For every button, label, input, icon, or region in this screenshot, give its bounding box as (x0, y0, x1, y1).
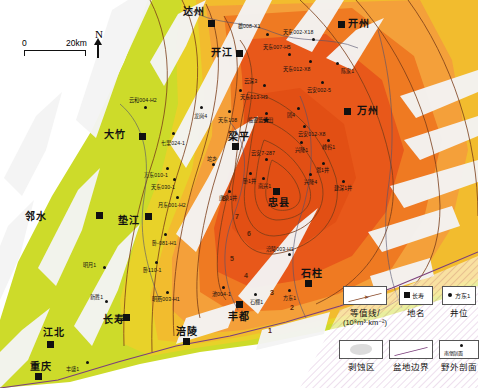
well-label: 峰谷1 (322, 145, 335, 150)
well-label: 万东010-1 (144, 173, 168, 178)
city-marker (344, 108, 351, 115)
well-dot-icon: 方东1 (442, 286, 476, 305)
well-label: 坨乡 (207, 157, 217, 162)
well-label: 涪陵003-H1 (266, 247, 294, 252)
denudation-blob-icon (339, 340, 383, 359)
city-label: 重庆 (30, 362, 51, 372)
well-label: 龙岗4 (194, 114, 207, 119)
well-label: 兴隆4 (304, 180, 317, 185)
city-label: 江北 (43, 328, 64, 338)
field-section-marker: ★ (262, 116, 270, 125)
city-label: 长寿 (103, 315, 124, 325)
well-label: 云深3 (244, 79, 257, 84)
well-label: 建深1井 (334, 186, 352, 191)
well-label: 天东108 (218, 118, 237, 123)
contour-line-icon: ➤ (343, 286, 387, 305)
city-marker (236, 50, 243, 57)
well-label: 云和004-H2 (129, 98, 157, 103)
contour-value-label: 8 (222, 195, 226, 202)
city-label: 开州 (348, 19, 369, 29)
legend-contour-caption: 等值线/ (336, 306, 394, 318)
city-marker (232, 143, 239, 150)
well-label: 卧110-1 (143, 268, 161, 273)
north-arrow-shaft (97, 42, 99, 58)
well-label: 新胜1 (90, 295, 103, 300)
city-marker (96, 212, 103, 219)
scale-bar-line (24, 50, 86, 51)
city-marker (145, 213, 152, 220)
scale-zero-label: 0 (22, 38, 27, 48)
city-marker (139, 133, 146, 140)
well-label: 团4 (287, 113, 295, 118)
city-marker (183, 338, 190, 345)
legend-denudation-caption: 剥蚀区 (336, 360, 386, 372)
city-marker (273, 188, 280, 195)
legend-item-denudation: 剥蚀区 (336, 340, 386, 372)
well-label: 卧-081-H1 (152, 241, 177, 246)
legend-place-sample: 长寿 (412, 291, 424, 300)
contour-value-label: 7 (235, 213, 239, 220)
contour-value-label: 5 (230, 255, 234, 262)
legend-basin-caption: 盆地边界 (386, 360, 436, 372)
well-label: 卧1井 (243, 179, 256, 184)
well-label: 天东013-H3 (240, 95, 268, 100)
city-marker (47, 341, 54, 348)
well-label: 恩1井 (316, 168, 329, 173)
legend-item-well: 方东1 井位 (438, 286, 480, 318)
city-label: 梁平 (228, 132, 249, 142)
city-label: 垫江 (118, 216, 139, 226)
well-label: 南兴1 (258, 184, 271, 189)
well-label: 月东001-H2 (158, 203, 186, 208)
city-label: 开江 (211, 48, 232, 58)
well-label: 丰盛1 (66, 367, 79, 372)
basin-boundary-icon (389, 340, 433, 359)
well-label: 天东002-X18 (283, 30, 314, 35)
city-label: 丰都 (228, 312, 249, 322)
contour-value-label: 2 (290, 304, 294, 311)
contour-value-label: 4 (244, 272, 248, 279)
city-label: 大竹 (104, 130, 125, 140)
well-label: 陈家1 (341, 69, 354, 74)
well-label: 雄008-X1 (238, 24, 260, 29)
well-label: 明月1 (83, 263, 96, 268)
legend-field-caption: 野外剖面 (436, 360, 482, 372)
contour-value-label: 6 (247, 230, 251, 237)
legend-well-sample: 方东1 (455, 291, 470, 300)
legend-place-caption: 地名 (394, 306, 438, 318)
well-label: 七里024-1 (161, 141, 185, 146)
city-marker (35, 373, 42, 380)
well-label: 明西003-H1 (152, 297, 180, 302)
city-label: 石柱 (301, 269, 322, 279)
well-label: 天东012-X8 (283, 67, 311, 72)
well-label: 天东030-1 (151, 185, 175, 190)
well-label: 云安012-X8 (298, 132, 326, 137)
north-arrow: N (92, 28, 106, 40)
place-square-icon: 长寿 (399, 286, 433, 305)
map-legend: ➤ 等值线/ (10⁸m³·km⁻²) 长寿 地名 方东1 井位 剥蚀区 盆地边… (336, 286, 478, 384)
well-label: 兴隆1 (295, 148, 308, 153)
city-marker (305, 280, 312, 287)
legend-contour-unit: (10⁸m³·km⁻²) (336, 318, 394, 327)
well-label: 方东1 (283, 296, 296, 301)
city-marker (123, 314, 130, 321)
legend-item-contour: ➤ 等值线/ (10⁸m³·km⁻²) (336, 286, 394, 327)
well-label: 云安7-287 (251, 151, 275, 156)
well-label: 池004-1 (212, 292, 231, 297)
contour-value-label: 1 (268, 327, 272, 334)
legend-field-sample: 南堡剖面 (444, 349, 463, 356)
city-label: 涪陵 (176, 327, 197, 337)
city-label: 达州 (183, 7, 204, 17)
legend-well-caption: 井位 (438, 306, 480, 318)
city-label: 忠县 (268, 198, 289, 208)
well-label: 石棚1 (250, 300, 263, 305)
scale-tick-end (85, 50, 86, 56)
legend-item-basin-boundary: 盆地边界 (386, 340, 436, 372)
well-label: 天东007-H5 (263, 45, 291, 50)
legend-item-field-section: 南堡剖面 野外剖面 (436, 340, 482, 372)
scale-tick-start (24, 50, 25, 56)
city-marker (208, 20, 215, 27)
contour-value-label: 3 (270, 289, 274, 296)
legend-item-place-name: 长寿 地名 (394, 286, 438, 318)
city-marker (236, 301, 243, 308)
